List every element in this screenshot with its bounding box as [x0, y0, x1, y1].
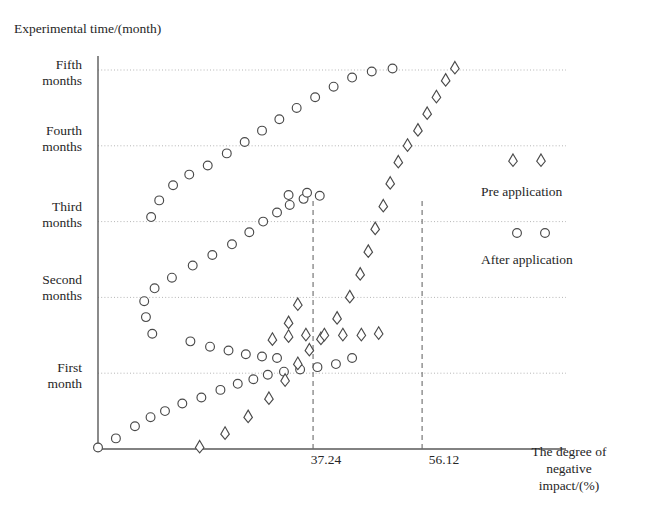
x-axis-title: The degree of negative impact/(%)	[505, 443, 633, 494]
reference-lines	[313, 201, 422, 453]
legend-label-after-application: After application	[481, 252, 573, 268]
x-axis-title-line3: impact/(%)	[505, 477, 633, 494]
chart-container: Experimental time/(month) Fifth months F…	[0, 0, 648, 516]
x-tick-label-5612: 56.12	[409, 452, 479, 468]
x-axis-title-line1: The degree of	[505, 443, 633, 460]
x-tick-label-3724: 37.24	[291, 452, 361, 468]
series-pre-application-markers	[195, 61, 459, 452]
series-after-application-markers	[94, 64, 397, 452]
x-axis-title-line2: negative	[505, 460, 633, 477]
legend-label-pre-application: Pre application	[481, 184, 562, 200]
gridlines	[98, 70, 566, 373]
